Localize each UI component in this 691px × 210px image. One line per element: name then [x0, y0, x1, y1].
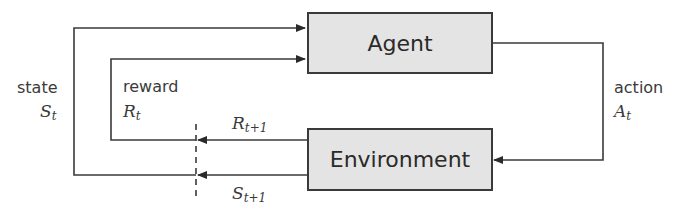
reward-label: reward [123, 79, 178, 95]
state-label: state [17, 80, 58, 96]
action-symbol-base: A [614, 101, 626, 121]
action-arrow [492, 43, 603, 160]
next-state-symbol-base: S [232, 183, 244, 203]
next-reward-symbol-sub: t+1 [245, 121, 268, 135]
reward-symbol-base: R [123, 101, 136, 121]
next-state-symbol-sub: t+1 [244, 191, 267, 205]
state-symbol-sub: t [52, 109, 57, 123]
environment-label: Environment [330, 147, 470, 172]
next-reward-symbol-base: R [232, 113, 245, 133]
agent-label: Agent [367, 31, 432, 56]
reward-loop-arrow [111, 59, 305, 140]
state-symbol: St [40, 103, 56, 122]
next-reward-symbol: Rt+1 [232, 115, 267, 134]
agent-box: Agent [307, 12, 493, 74]
state-symbol-base: S [40, 101, 52, 121]
reward-symbol-sub: t [136, 109, 141, 123]
state-loop-arrow [74, 28, 305, 175]
next-state-symbol: St+1 [232, 185, 266, 204]
action-label: action [614, 80, 663, 96]
environment-box: Environment [307, 128, 493, 191]
reward-symbol: Rt [123, 103, 141, 122]
action-symbol: At [614, 103, 631, 122]
action-symbol-sub: t [626, 109, 631, 123]
